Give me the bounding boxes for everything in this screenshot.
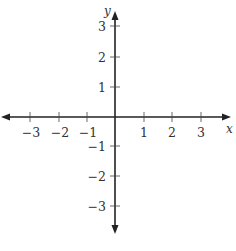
x-tick-label: 3 (197, 125, 205, 140)
coordinate-plane: −3 −2 −1 1 2 3 3 2 1 −1 −2 −3 y x (0, 0, 236, 251)
x-axis-left-arrow-icon (1, 114, 10, 121)
x-tick-labels: −3 −2 −1 1 2 3 (22, 125, 205, 140)
y-tick-label: −1 (88, 139, 106, 154)
x-axis-label: x (226, 122, 233, 136)
x-tick-label: 2 (168, 125, 176, 140)
y-tick-label: 2 (98, 50, 106, 65)
y-tick-label: 3 (98, 19, 106, 34)
y-axis-label: y (103, 4, 111, 18)
y-tick-label: −3 (88, 199, 106, 214)
y-axis-bottom-arrow-icon (112, 225, 119, 234)
x-axis-right-arrow-icon (222, 114, 231, 121)
y-tick-label: −2 (88, 169, 106, 184)
y-axis-top-arrow-icon (112, 11, 119, 20)
x-tick-label: −1 (79, 125, 97, 140)
y-tick-label: 1 (98, 80, 106, 95)
x-tick-label: −3 (22, 125, 40, 140)
x-tick-label: 1 (140, 125, 148, 140)
x-tick-label: −2 (51, 125, 69, 140)
